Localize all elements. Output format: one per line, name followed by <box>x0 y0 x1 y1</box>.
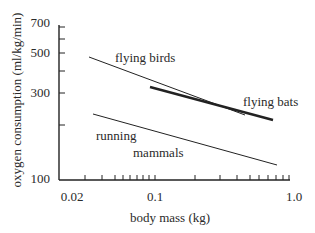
x-tick-label-0.02: 0.02 <box>61 189 84 204</box>
x-axis-title: body mass (kg) <box>130 210 210 225</box>
y-tick-label-300: 300 <box>31 85 51 100</box>
x-tick-label-1.0: 1.0 <box>286 189 302 204</box>
label-flying-birds: flying birds <box>115 50 175 65</box>
y-tick-label-700: 700 <box>31 15 51 30</box>
label-mammals: mammals <box>133 145 184 160</box>
y-tick-label-100: 100 <box>31 171 51 186</box>
y-axis-title: oxygen consumption (ml/kg/min) <box>9 13 24 188</box>
label-flying-bats: flying bats <box>243 94 298 109</box>
y-ticks <box>59 27 65 125</box>
chart-canvas: 700 500 300 100 0.02 0.1 1.0 body mass (… <box>0 0 315 233</box>
y-tick-label-500: 500 <box>31 45 51 60</box>
x-ticks <box>85 175 289 180</box>
x-tick-label-0.1: 0.1 <box>147 189 163 204</box>
label-running: running <box>96 128 137 143</box>
